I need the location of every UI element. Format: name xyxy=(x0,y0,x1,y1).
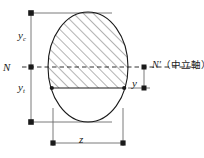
tick-neutral-axis-left xyxy=(28,64,33,69)
label-width-z: z xyxy=(79,134,83,145)
node-chord-right xyxy=(122,86,126,90)
neutral-axis-symbol: N′ xyxy=(152,59,161,70)
tick-y-bottom xyxy=(142,86,147,91)
tick-bottom-left xyxy=(28,119,34,125)
neutral-axis-note: （中立軸） xyxy=(161,59,204,70)
label-y-compression: yc xyxy=(18,30,26,42)
label-y-tension: yt xyxy=(18,82,25,94)
cross-section-diagram xyxy=(0,0,204,158)
tick-y-top xyxy=(142,65,147,70)
node-chord-left xyxy=(50,86,54,90)
tick-z-left xyxy=(50,140,55,145)
label-neutral-axis-left: N xyxy=(3,62,10,73)
label-neutral-axis-right: N′（中立軸） xyxy=(152,60,204,70)
tick-top-left xyxy=(28,10,34,16)
tick-z-right xyxy=(120,140,125,145)
figure-container: yc yt N y z N′（中立軸） xyxy=(0,0,204,158)
label-small-y: y xyxy=(132,78,137,89)
